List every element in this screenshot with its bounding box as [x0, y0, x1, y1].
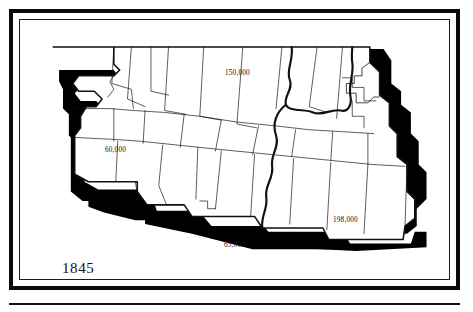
map-label-150000: 150,000	[225, 70, 250, 77]
figure-root: 150,000 60,000 65,000 198,000 1845	[0, 0, 473, 312]
map-plate: 150,000 60,000 65,000 198,000 1845	[20, 20, 449, 279]
figure-inner-rule: 150,000 60,000 65,000 198,000 1845	[19, 19, 450, 280]
map-label-65000: 65,000	[224, 242, 245, 249]
map-label-60000: 60,000	[105, 147, 126, 154]
figure-outer-frame: 150,000 60,000 65,000 198,000 1845	[9, 9, 460, 290]
bottom-separator-rule	[9, 303, 460, 305]
map-year-label: 1845	[62, 261, 94, 276]
map-label-198000: 198,000	[333, 217, 358, 224]
